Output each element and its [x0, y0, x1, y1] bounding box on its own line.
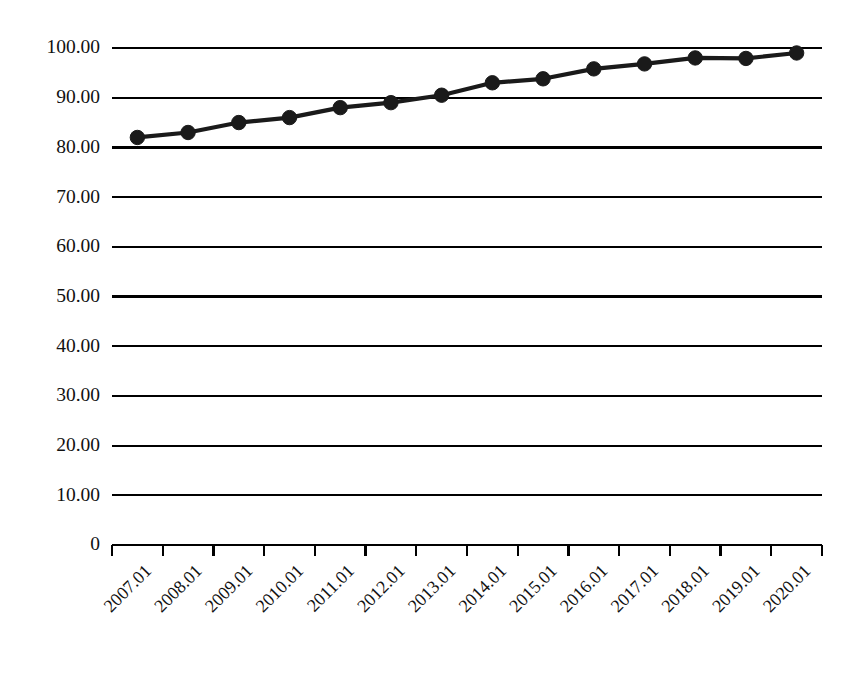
y-axis-tick-label: 100.00 [46, 36, 100, 57]
y-axis-tick-label: 0 [90, 533, 100, 554]
data-point-marker [688, 51, 702, 65]
y-axis-tick-label: 70.00 [56, 186, 100, 207]
y-axis-tick-label: 40.00 [56, 335, 100, 356]
chart-canvas: 100.0090.0080.0070.0060.0050.0040.0030.0… [0, 0, 861, 676]
y-axis-tick-label: 80.00 [56, 136, 100, 157]
y-axis-tick-label: 50.00 [56, 285, 100, 306]
data-point-marker [384, 95, 398, 109]
data-point-marker [789, 46, 803, 60]
data-point-marker [232, 115, 246, 129]
y-axis-tick-label: 30.00 [56, 384, 100, 405]
data-point-marker [181, 125, 195, 139]
data-point-marker [637, 57, 651, 71]
y-axis-tick-label: 90.00 [56, 86, 100, 107]
y-axis-tick-label: 60.00 [56, 235, 100, 256]
data-point-marker [130, 130, 144, 144]
y-axis-tick-label: 20.00 [56, 434, 100, 455]
data-point-marker [333, 100, 347, 114]
data-point-marker [485, 76, 499, 90]
y-axis-tick-label: 10.00 [56, 484, 100, 505]
data-point-marker [739, 51, 753, 65]
data-point-marker [434, 88, 448, 102]
data-point-marker [282, 110, 296, 124]
line-chart: 100.0090.0080.0070.0060.0050.0040.0030.0… [0, 0, 861, 676]
data-point-marker [587, 62, 601, 76]
data-point-marker [536, 72, 550, 86]
